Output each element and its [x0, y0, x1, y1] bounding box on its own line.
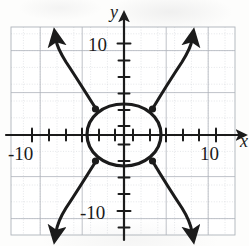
- intersection-point: [149, 157, 156, 164]
- x-axis-label: x: [239, 131, 248, 151]
- intersection-point: [149, 105, 156, 112]
- graph-figure: -10 10 10 -10 y x: [0, 0, 249, 246]
- intersection-point: [92, 105, 99, 112]
- y-tick-label-pos10: 10: [88, 34, 107, 55]
- y-tick-label-neg10: -10: [80, 202, 105, 223]
- x-tick-label-neg10: -10: [8, 143, 33, 164]
- coordinate-plot: -10 10 10 -10 y x: [0, 0, 249, 246]
- intersection-point: [92, 157, 99, 164]
- x-tick-label-pos10: 10: [200, 143, 219, 164]
- y-axis-label: y: [108, 2, 118, 22]
